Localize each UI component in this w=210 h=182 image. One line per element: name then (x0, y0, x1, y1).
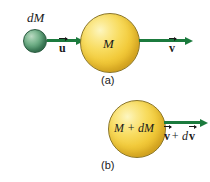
vector-arrow-icon (59, 38, 67, 39)
panel-a-caption: (a) (101, 75, 114, 86)
velocity-v-plus-dv-label: v+ dv (164, 130, 195, 142)
velocity-plus-differential: + d (170, 129, 189, 143)
velocity-v-letter: v (164, 129, 170, 143)
small-mass-sphere (23, 29, 47, 53)
velocity-dv-letter: v (189, 129, 195, 143)
momentum-rocket-figure: dM u M v (a) M + dM v+ dv (b) (0, 0, 210, 182)
velocity-u-label: u (59, 42, 66, 54)
velocity-v-arrow (139, 39, 186, 42)
combined-mass-label: M + dM (114, 122, 154, 134)
velocity-v-plus-dv-arrow (164, 121, 201, 124)
vector-arrow-icon (164, 126, 171, 127)
velocity-v-label: v (169, 42, 175, 54)
vector-arrow-icon (189, 126, 196, 127)
velocity-v-letter: v (169, 41, 175, 55)
large-mass-label: M (103, 37, 114, 50)
vector-arrow-icon (169, 38, 176, 39)
velocity-u-letter: u (59, 41, 66, 55)
small-mass-label: dM (27, 11, 44, 24)
panel-b-caption: (b) (101, 160, 114, 171)
